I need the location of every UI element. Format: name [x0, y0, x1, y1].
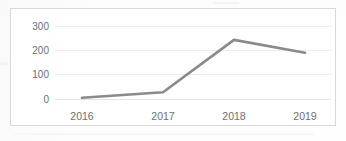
ytick-label-300: 300: [32, 21, 49, 32]
scan-artifact-top: [213, 2, 239, 4]
scan-artifact-left: [0, 62, 9, 65]
xtick-label-2019: 2019: [293, 110, 317, 122]
scan-artifact-bottom: [14, 133, 314, 135]
xtick-label-2018: 2018: [222, 110, 246, 122]
ytick-label-200: 200: [32, 45, 49, 56]
scanned-page-background: 300 200 100 0 2016 2017 2018 2019: [0, 0, 346, 141]
ytick-label-100: 100: [32, 69, 49, 80]
xtick-label-2017: 2017: [151, 110, 175, 122]
chart-frame: 300 200 100 0 2016 2017 2018 2019: [10, 8, 336, 126]
line-chart: 300 200 100 0 2016 2017 2018 2019: [11, 9, 337, 127]
series-line-primary: [82, 40, 305, 98]
ytick-label-0: 0: [43, 94, 49, 105]
chart-svg: 300 200 100 0 2016 2017 2018 2019: [11, 9, 337, 127]
xtick-label-2016: 2016: [70, 110, 94, 122]
